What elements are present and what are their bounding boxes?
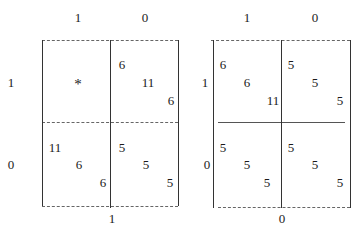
cell-value: 5 <box>288 141 295 154</box>
cell-value: 5 <box>312 76 319 89</box>
cell-value: 6 <box>100 176 107 189</box>
cell-value: 6 <box>119 58 126 71</box>
left-col-label-0: 0 <box>142 11 149 24</box>
cell-value: 11 <box>142 76 155 89</box>
cell-value: 5 <box>119 141 126 154</box>
left-right-border <box>178 40 179 206</box>
cell-value: 6 <box>220 58 227 71</box>
cell-value: 6 <box>244 76 251 89</box>
left-bottom-label: 1 <box>109 212 116 225</box>
right-left-border <box>213 40 214 208</box>
left-col-label-1: 1 <box>75 11 82 24</box>
left-row-label-0: 0 <box>8 158 15 171</box>
cell-value: 5 <box>167 176 174 189</box>
right-row-label-0: 0 <box>204 158 211 171</box>
cell-marker-star: * <box>74 77 82 92</box>
cell-value: 5 <box>220 141 227 154</box>
right-bottom-label: 0 <box>279 212 286 225</box>
cell-value: 5 <box>337 176 344 189</box>
right-col-label-1: 1 <box>244 11 251 24</box>
left-center-divider <box>110 40 111 208</box>
cell-value: 5 <box>312 158 319 171</box>
right-row-label-1: 1 <box>202 76 209 89</box>
cell-value: 6 <box>168 94 175 107</box>
right-bottom-border <box>218 207 350 208</box>
cell-value: 5 <box>244 158 251 171</box>
cell-value: 6 <box>76 158 83 171</box>
cell-value: 5 <box>337 94 344 107</box>
cell-value: 5 <box>288 58 295 71</box>
cell-value: 5 <box>264 176 271 189</box>
cell-value: 11 <box>267 94 280 107</box>
left-left-border <box>42 40 43 206</box>
left-row-label-1: 1 <box>8 76 15 89</box>
cell-value: 5 <box>143 158 150 171</box>
right-center-divider <box>281 40 282 208</box>
right-right-border <box>350 40 351 208</box>
right-col-label-0: 0 <box>312 11 319 24</box>
cell-value: 11 <box>49 141 62 154</box>
